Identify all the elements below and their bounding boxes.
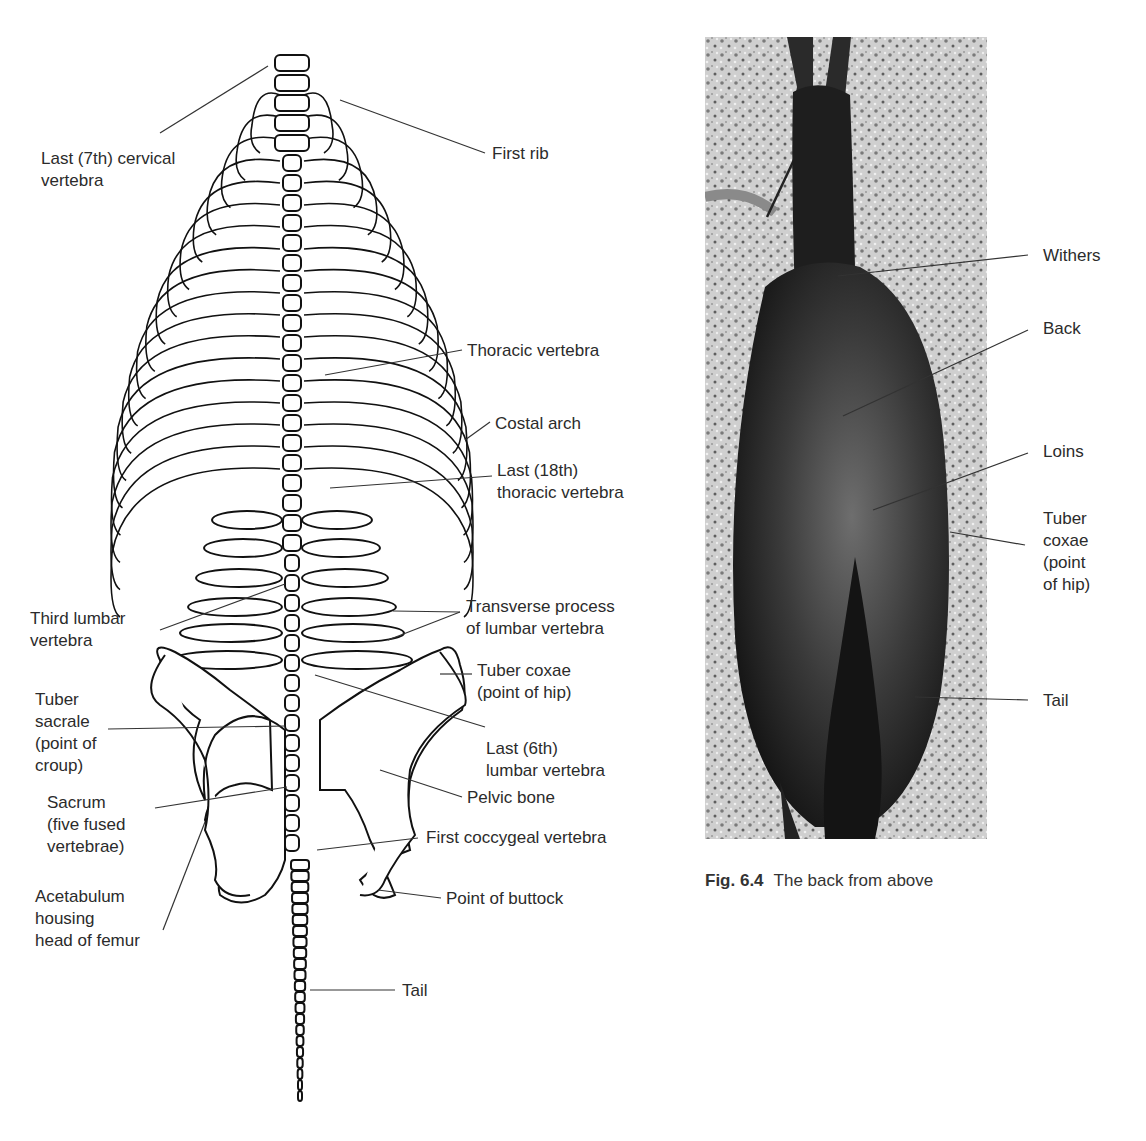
vertebra xyxy=(283,515,301,531)
tail-vertebra xyxy=(297,1036,304,1046)
label-costal-arch: Costal arch xyxy=(495,413,581,435)
tail-vertebra xyxy=(294,959,306,969)
label-point-of-buttock: Point of buttock xyxy=(446,888,563,910)
transverse-process-left xyxy=(180,624,282,642)
transverse-process-right xyxy=(302,569,388,587)
rib-right xyxy=(304,159,377,235)
tail-vertebra xyxy=(298,1069,303,1079)
transverse-process-right xyxy=(302,598,396,616)
tail-vertebra xyxy=(298,1091,302,1101)
vertebra xyxy=(285,795,299,811)
vertebra xyxy=(285,675,299,691)
tail-vertebra xyxy=(295,970,306,980)
vertebra xyxy=(283,395,301,411)
rib-left xyxy=(193,181,280,262)
tail-vertebra xyxy=(297,1047,303,1057)
tail-vertebra xyxy=(293,926,307,936)
label-last-cervical-vertebra: Last (7th) cervical vertebra xyxy=(41,148,175,192)
transverse-process-left xyxy=(188,598,282,616)
vertebra xyxy=(275,115,309,131)
figure-caption: Fig. 6.4The back from above xyxy=(705,868,965,894)
vertebra xyxy=(283,275,301,291)
label-tuber-coxae: Tuber coxae (point of hip) xyxy=(477,660,572,704)
rib-left xyxy=(117,358,280,481)
vertebra xyxy=(285,555,299,571)
vertebra xyxy=(283,175,301,191)
vertebra xyxy=(283,495,301,511)
transverse-process-right xyxy=(302,511,372,529)
rib-right xyxy=(304,380,470,508)
label-first-rib: First rib xyxy=(492,143,549,165)
label-withers: Withers xyxy=(1043,245,1101,267)
vertebra xyxy=(285,635,299,651)
label-pelvic-bone: Pelvic bone xyxy=(467,787,555,809)
figure-number: Fig. 6.4 xyxy=(705,871,764,890)
rib-left xyxy=(146,270,280,372)
horse-photo-illustration xyxy=(705,37,987,839)
vertebra xyxy=(285,775,299,791)
rib-right xyxy=(304,314,455,426)
label-last-thoracic-vertebra: Last (18th) thoracic vertebra xyxy=(497,460,624,504)
label-tuber-sacrale: Tuber sacrale (point of croup) xyxy=(35,689,96,777)
vertebra xyxy=(275,135,309,151)
vertebra xyxy=(283,475,301,491)
tail-vertebra xyxy=(291,871,308,881)
rib-left xyxy=(156,248,280,344)
vertebra xyxy=(285,835,299,851)
tail-vertebra xyxy=(291,860,309,870)
vertebra xyxy=(285,735,299,751)
transverse-process-left xyxy=(212,511,282,529)
vertebra xyxy=(283,295,301,311)
rib-right xyxy=(304,358,467,481)
tail-vertebra xyxy=(294,948,306,958)
rib-right xyxy=(304,137,363,207)
label-sacrum: Sacrum (five fused vertebrae) xyxy=(47,792,125,858)
label-photo-tuber-coxae: Tuber coxae (point of hip) xyxy=(1043,508,1090,596)
vertebra xyxy=(285,575,299,591)
vertebra xyxy=(283,535,301,551)
label-first-coccygeal-vertebra: First coccygeal vertebra xyxy=(426,827,606,849)
vertebra xyxy=(285,695,299,711)
rib-left xyxy=(114,380,280,508)
rib-right xyxy=(304,115,348,180)
rib-left xyxy=(207,159,280,235)
rib-right xyxy=(304,270,438,372)
rib-left xyxy=(129,314,280,426)
tail-vertebra xyxy=(296,1003,305,1013)
tail-vertebra xyxy=(293,937,306,947)
transverse-process-right xyxy=(302,539,380,557)
tail-vertebra xyxy=(296,1014,304,1024)
vertebra xyxy=(283,155,301,171)
vertebra xyxy=(285,615,299,631)
vertebra xyxy=(283,255,301,271)
vertebra xyxy=(283,435,301,451)
figure-caption-text: The back from above xyxy=(774,871,934,890)
transverse-process-left xyxy=(196,569,282,587)
label-photo-tail: Tail xyxy=(1043,690,1069,712)
tail-vertebra xyxy=(293,915,308,925)
vertebra xyxy=(283,315,301,331)
label-acetabulum: Acetabulum housing head of femur xyxy=(35,886,140,952)
vertebra xyxy=(283,235,301,251)
vertebra xyxy=(283,375,301,391)
rib-left xyxy=(221,137,280,207)
rib-right xyxy=(304,181,391,262)
tail-vertebra xyxy=(298,1080,302,1090)
tail-vertebra xyxy=(292,904,307,914)
vertebra xyxy=(285,715,299,731)
label-back: Back xyxy=(1043,318,1081,340)
rib-left xyxy=(236,115,280,180)
vertebra xyxy=(285,815,299,831)
tail-vertebra xyxy=(292,882,309,892)
tail-vertebra xyxy=(296,1025,304,1035)
vertebra xyxy=(283,355,301,371)
label-thoracic-vertebra: Thoracic vertebra xyxy=(467,340,599,362)
vertebra xyxy=(285,595,299,611)
tail-vertebra xyxy=(295,992,305,1002)
horse-back-photo xyxy=(705,37,987,839)
vertebra xyxy=(283,215,301,231)
tail-vertebra xyxy=(292,893,308,903)
vertebra xyxy=(275,75,309,91)
vertebra xyxy=(283,335,301,351)
rib-right xyxy=(304,248,428,344)
